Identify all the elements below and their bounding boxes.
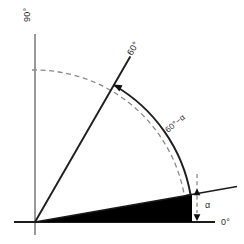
label-horizontal-axis: 0° (221, 217, 230, 227)
label-vertical-axis: 90° (22, 8, 32, 22)
angle-diagram-figure: 90° 60° 60°−α α 0° (0, 0, 244, 244)
label-inclination-alpha: α (205, 200, 210, 210)
angle-diagram-canvas: 90° 60° 60°−α α 0° (0, 0, 244, 244)
